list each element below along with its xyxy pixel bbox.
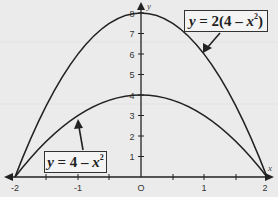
y-tick-labels: 1 2 3 4 5 6 7 8 [129, 9, 134, 163]
upper-curve-label: y = 2(4 – x2) [184, 10, 268, 32]
parabola-chart: 1 2 3 4 5 6 7 8 -2 -1 O 1 2 y x [0, 0, 278, 197]
x-axis [4, 173, 274, 181]
svg-text:-1: -1 [74, 183, 82, 193]
lower-label-arrow [74, 119, 83, 150]
svg-text:1: 1 [201, 183, 206, 193]
x-tick-labels: -2 -1 O 1 2 [11, 183, 268, 193]
svg-text:1: 1 [129, 152, 134, 162]
y-axis-arrow-icon [137, 2, 145, 10]
svg-text:-2: -2 [11, 183, 19, 193]
y-axis [137, 2, 145, 177]
svg-text:2: 2 [129, 132, 134, 142]
svg-text:5: 5 [129, 70, 134, 80]
svg-text:3: 3 [129, 111, 134, 121]
svg-text:O: O [137, 183, 144, 193]
y-axis-name: y [146, 1, 151, 11]
upper-label-arrow [203, 33, 220, 53]
arrow-head-icon [74, 119, 83, 129]
svg-text:6: 6 [129, 50, 134, 60]
x-axis-left-arrow-icon [4, 173, 13, 181]
svg-text:2: 2 [262, 183, 267, 193]
svg-text:7: 7 [129, 29, 134, 39]
x-axis-name: x [267, 163, 272, 173]
lower-curve-label: y = 4 – x2 [44, 151, 107, 173]
